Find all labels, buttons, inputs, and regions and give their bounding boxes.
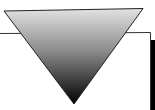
gradient-triangle: [4, 9, 143, 105]
diagram-canvas: [0, 0, 155, 110]
panel-shadow: [151, 40, 155, 110]
